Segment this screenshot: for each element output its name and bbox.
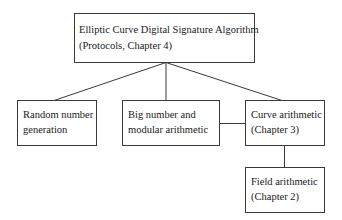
node-field-line-1: Field arithmetic xyxy=(251,174,319,189)
node-random-line-1: Random number xyxy=(23,107,91,122)
node-field-arithmetic: Field arithmetic (Chapter 2) xyxy=(245,167,325,213)
edge-ecdsa-random xyxy=(54,63,166,101)
node-bignum-line-1: Big number and xyxy=(128,107,214,122)
node-ecdsa-subtitle: (Protocols, Chapter 4) xyxy=(79,38,250,54)
edge-ecdsa-curve xyxy=(166,63,282,101)
node-curve-line-1: Curve arithmetic xyxy=(251,107,319,122)
node-ecdsa: Elliptic Curve Digital Signature Algorit… xyxy=(74,13,255,63)
node-big-number-modular-arithmetic: Big number and modular arithmetic xyxy=(122,100,220,146)
node-random-line-2: generation xyxy=(23,122,91,137)
node-bignum-line-2: modular arithmetic xyxy=(128,122,214,137)
node-random-number-generation: Random number generation xyxy=(17,100,97,146)
node-field-line-2: (Chapter 2) xyxy=(251,189,319,204)
node-curve-line-2: (Chapter 3) xyxy=(251,122,319,137)
node-ecdsa-title: Elliptic Curve Digital Signature Algorit… xyxy=(79,22,250,38)
node-curve-arithmetic: Curve arithmetic (Chapter 3) xyxy=(245,100,325,146)
